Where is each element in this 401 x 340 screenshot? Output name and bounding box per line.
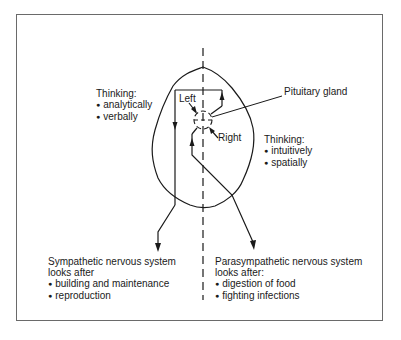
parasympathetic-title: Parasympathetic nervous system [215,256,362,267]
sympathetic-title: Sympathetic nervous system [48,256,176,267]
sympathetic-item: building and maintenance [48,278,176,290]
left-thinking-label: Thinking: analytically verbally [96,88,152,123]
parasympathetic-label: Parasympathetic nervous system looks aft… [215,256,362,302]
left-thinking-item: analytically [96,99,152,111]
parasympathetic-item: fighting infections [215,290,362,302]
right-thinking-heading: Thinking: [264,134,312,145]
parasympathetic-subtitle: looks after: [215,267,362,278]
left-thinking-item: verbally [96,111,152,123]
parasympathetic-item: digestion of food [215,278,362,290]
left-hemisphere-label: Left [179,93,196,104]
sympathetic-label: Sympathetic nervous system looks after b… [48,256,176,302]
right-hemisphere-label: Right [218,132,241,143]
right-thinking-item: spatially [264,157,312,169]
right-thinking-item: intuitively [264,145,312,157]
right-thinking-label: Thinking: intuitively spatially [264,134,312,169]
left-thinking-heading: Thinking: [96,88,152,99]
sympathetic-subtitle: looks after [48,267,176,278]
sympathetic-item: reproduction [48,290,176,302]
pituitary-gland-label: Pituitary gland [284,86,347,97]
